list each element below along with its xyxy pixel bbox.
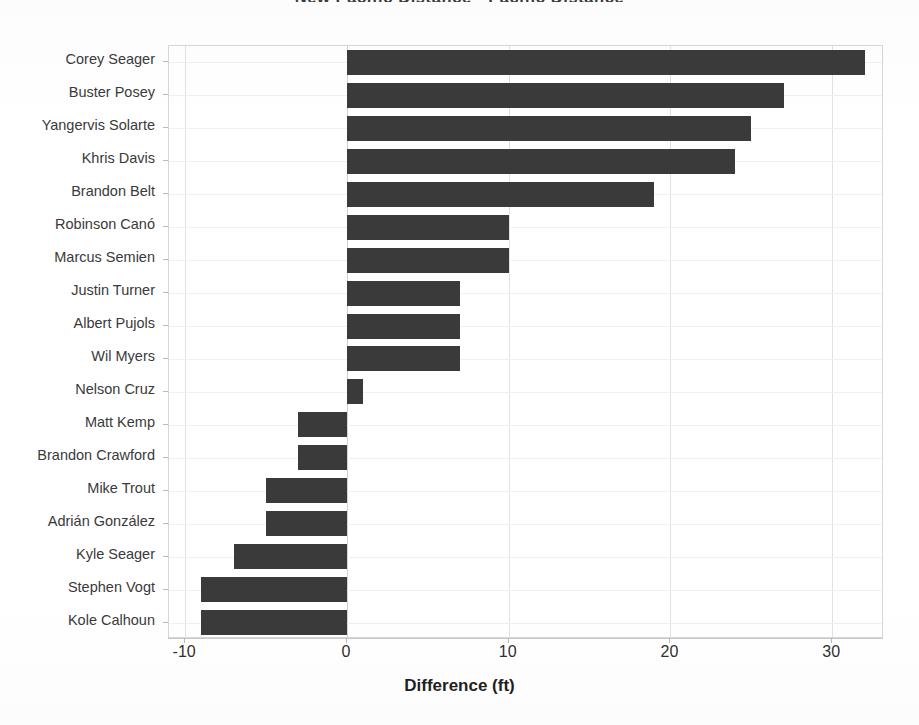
gridline-y-6 xyxy=(169,260,882,261)
y-axis-label: Nelson Cruz xyxy=(0,381,155,397)
y-axis-label: Robinson Canó xyxy=(0,216,155,232)
y-axis-label: Corey Seager xyxy=(0,51,155,67)
y-axis-label: Marcus Semien xyxy=(0,249,155,265)
bar xyxy=(298,445,347,470)
y-axis-label: Kole Calhoun xyxy=(0,612,155,628)
bar xyxy=(347,50,865,75)
x-axis-tick-label: 20 xyxy=(661,643,679,661)
y-axis-label: Khris Davis xyxy=(0,150,155,166)
bar xyxy=(347,83,784,108)
y-axis-label: Stephen Vogt xyxy=(0,579,155,595)
y-axis-label: Brandon Belt xyxy=(0,183,155,199)
bar xyxy=(266,511,347,536)
bar xyxy=(347,215,509,240)
bar xyxy=(347,116,751,141)
gridline-y-11 xyxy=(169,425,882,426)
bar xyxy=(347,149,735,174)
y-axis-label: Buster Posey xyxy=(0,84,155,100)
bar xyxy=(347,379,363,404)
y-axis-label: Albert Pujols xyxy=(0,315,155,331)
y-axis-label: Kyle Seager xyxy=(0,546,155,562)
bar xyxy=(266,478,347,503)
x-axis-tick-label: 30 xyxy=(822,643,840,661)
gridline-x-30 xyxy=(832,46,833,637)
y-axis-label: Mike Trout xyxy=(0,480,155,496)
y-axis-label: Adrián González xyxy=(0,513,155,529)
y-axis-category-labels: Corey SeagerBuster PoseyYangervis Solart… xyxy=(0,45,163,638)
bar xyxy=(201,610,347,635)
bar xyxy=(347,346,460,371)
y-axis-label: Brandon Crawford xyxy=(0,447,155,463)
bar xyxy=(347,248,509,273)
gridline-x--10 xyxy=(185,46,186,637)
bar-chart-figure: New Pacific Distance - Pacific Distance … xyxy=(0,0,919,725)
bar xyxy=(347,314,460,339)
x-axis-ticks: -100102030 xyxy=(168,638,883,668)
y-axis-label: Yangervis Solarte xyxy=(0,117,155,133)
bar xyxy=(347,182,654,207)
plot-area xyxy=(168,45,883,638)
bar xyxy=(201,577,347,602)
gridline-y-9 xyxy=(169,359,882,360)
bar xyxy=(347,281,460,306)
y-axis-label: Justin Turner xyxy=(0,282,155,298)
y-axis-label: Matt Kemp xyxy=(0,414,155,430)
x-axis-tick-label: 10 xyxy=(499,643,517,661)
bar xyxy=(234,544,347,569)
bar xyxy=(298,412,347,437)
gridline-y-12 xyxy=(169,458,882,459)
y-axis-label: Wil Myers xyxy=(0,348,155,364)
gridline-y-10 xyxy=(169,392,882,393)
x-axis-title: Difference (ft) xyxy=(0,676,919,696)
x-axis-tick-label: 0 xyxy=(341,643,350,661)
x-axis-tick-label: -10 xyxy=(173,643,196,661)
gridline-y-7 xyxy=(169,293,882,294)
gridline-y-8 xyxy=(169,326,882,327)
chart-title: New Pacific Distance - Pacific Distance xyxy=(0,0,919,2)
gridline-y-5 xyxy=(169,227,882,228)
